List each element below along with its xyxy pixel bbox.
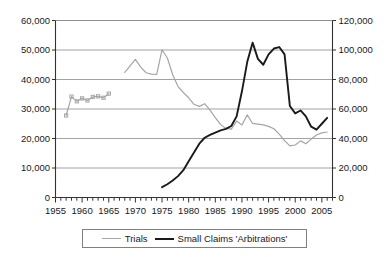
y-left-tick-label: 60,000 xyxy=(0,16,50,26)
y-right-tick-label: 20,000 xyxy=(339,163,389,173)
series-line-0-1 xyxy=(125,50,327,146)
legend-label-trials: Trials xyxy=(125,234,148,244)
y-left-tick-label: 20,000 xyxy=(0,134,50,144)
x-tick-label: 1980 xyxy=(175,206,203,216)
y-left-tick-label: 10,000 xyxy=(0,163,50,173)
chart-legend: Trials Small Claims 'Arbitrations' xyxy=(82,229,307,248)
x-tick-label: 1970 xyxy=(121,206,149,216)
legend-item-small-claims: Small Claims 'Arbitrations' xyxy=(155,234,288,244)
y-left-tick-label: 40,000 xyxy=(0,75,50,85)
x-tick-label: 1960 xyxy=(68,206,96,216)
chart-plot-svg xyxy=(0,0,389,257)
y-right-tick-label: 120,000 xyxy=(339,16,389,26)
x-tick-label: 1990 xyxy=(228,206,256,216)
x-tick-label: 2005 xyxy=(308,206,336,216)
x-tick-label: 1975 xyxy=(148,206,176,216)
y-right-tick-label: 100,000 xyxy=(339,45,389,55)
x-tick-label: 1965 xyxy=(95,206,123,216)
x-tick-label: 1985 xyxy=(201,206,229,216)
legend-label-small-claims: Small Claims 'Arbitrations' xyxy=(178,234,288,244)
data-series xyxy=(65,43,328,188)
legend-swatch-trials-icon xyxy=(102,238,121,239)
chart-container: 010,00020,00030,00040,00050,00060,000020… xyxy=(0,0,389,257)
series-line-0-0 xyxy=(66,94,109,116)
y-right-tick-label: 60,000 xyxy=(339,104,389,114)
y-left-tick-label: 50,000 xyxy=(0,45,50,55)
y-left-tick-label: 30,000 xyxy=(0,104,50,114)
y-right-tick-label: 40,000 xyxy=(339,134,389,144)
y-right-tick-label: 80,000 xyxy=(339,75,389,85)
legend-swatch-small-claims-icon xyxy=(155,238,174,240)
x-tick-label: 2000 xyxy=(281,206,309,216)
y-left-tick-label: 0 xyxy=(0,193,50,203)
x-tick-label: 1995 xyxy=(255,206,283,216)
y-right-tick-label: 0 xyxy=(339,193,389,203)
series-line-1-0 xyxy=(162,43,327,188)
legend-item-trials: Trials xyxy=(102,234,148,244)
x-tick-label: 1955 xyxy=(42,206,70,216)
